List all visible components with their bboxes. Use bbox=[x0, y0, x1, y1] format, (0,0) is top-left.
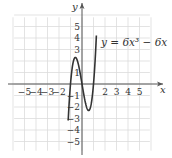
x-tick-label: 2 bbox=[102, 87, 108, 97]
x-tick-label: 5 bbox=[137, 87, 143, 97]
y-axis-label: y bbox=[71, 1, 78, 12]
y-tick-label: 4 bbox=[74, 33, 80, 43]
cubic-function-graph: −5−4−3−223455431−1−2−3−4−5 y = 6x³ − 6x … bbox=[0, 0, 172, 158]
x-tick-label: 3 bbox=[114, 87, 120, 97]
x-tick-label: −2 bbox=[52, 87, 65, 97]
y-tick-label: 3 bbox=[74, 45, 80, 55]
x-axis-label: x bbox=[160, 84, 166, 95]
y-tick-label: 5 bbox=[74, 22, 80, 32]
y-tick-label: −5 bbox=[67, 137, 81, 147]
equation-label: y = 6x³ − 6x bbox=[100, 36, 167, 48]
x-tick-label: 4 bbox=[125, 87, 131, 97]
y-tick-label: −4 bbox=[67, 125, 81, 135]
